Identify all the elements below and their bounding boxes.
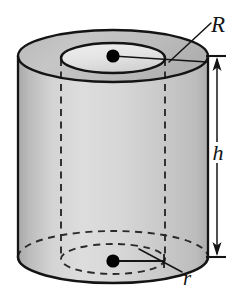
- figure-container: R h r: [0, 0, 239, 303]
- bottom-center-dot: [106, 254, 119, 267]
- cylinder-body-group: [18, 30, 208, 283]
- cylinder-lateral-surface: [18, 56, 208, 283]
- outer-radius-label: R: [210, 12, 225, 37]
- top-center-dot: [106, 49, 119, 62]
- inner-radius-label: r: [183, 266, 192, 290]
- height-label: h: [213, 140, 224, 165]
- annular-cylinder-figure: R h r: [0, 0, 239, 303]
